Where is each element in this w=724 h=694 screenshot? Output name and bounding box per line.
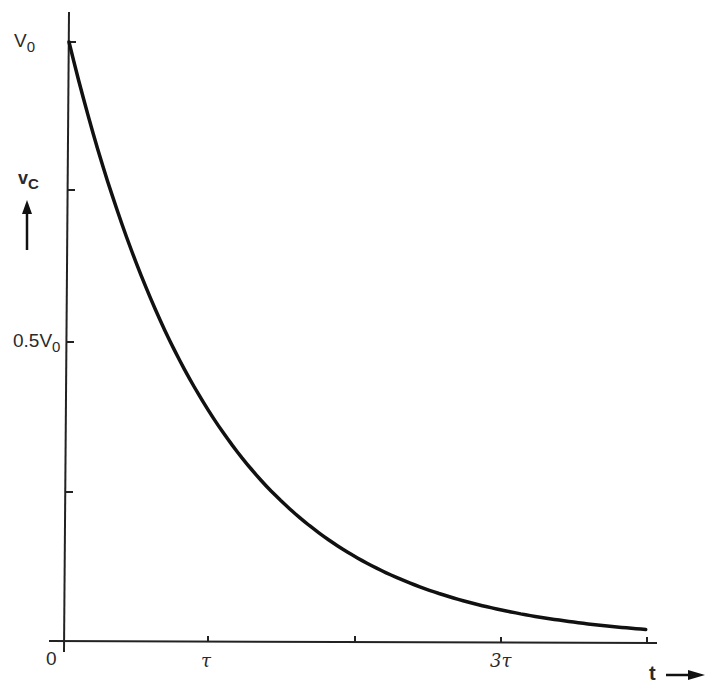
x-label-tau: τ [201,650,211,671]
y-axis-title: vC [18,168,39,192]
x-axis-arrow-icon [688,670,705,680]
y-axis-arrow-icon [22,200,32,214]
y-label-half-v0: 0.5V0 [13,330,60,355]
y-label-v0: V0 [14,30,35,55]
x-axis [49,641,657,643]
origin-label: 0 [46,648,57,670]
x-axis-title: t [649,662,656,685]
y-axis [64,12,69,652]
decay-plot [0,0,724,694]
x-label-3tau: 3τ [490,650,511,671]
decay-curve [69,42,646,630]
